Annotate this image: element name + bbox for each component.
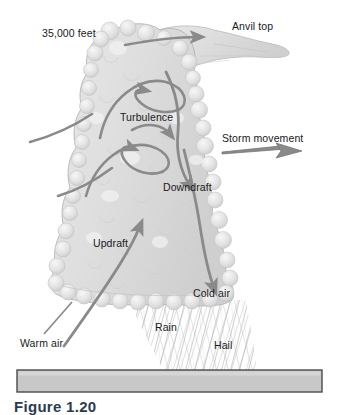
label-cold-air: Cold air — [193, 287, 230, 299]
label-turbulence: Turbulence — [120, 111, 173, 123]
label-anvil-top: Anvil top — [232, 20, 273, 32]
label-hail: Hail — [214, 339, 233, 351]
label-altitude: 35,000 feet — [42, 27, 96, 39]
warm-air-leader-line — [44, 302, 72, 334]
figure-caption: Figure 1.20 — [14, 398, 97, 415]
label-storm-movement: Storm movement — [222, 132, 303, 144]
cumulonimbus-cloud — [48, 20, 238, 310]
label-downdraft: Downdraft — [163, 181, 212, 193]
label-rain: Rain — [155, 321, 177, 333]
storm-movement-arrow — [222, 143, 302, 158]
label-warm-air: Warm air — [20, 337, 63, 349]
label-updraft: Updraft — [93, 237, 128, 249]
ground-surface — [17, 370, 322, 392]
